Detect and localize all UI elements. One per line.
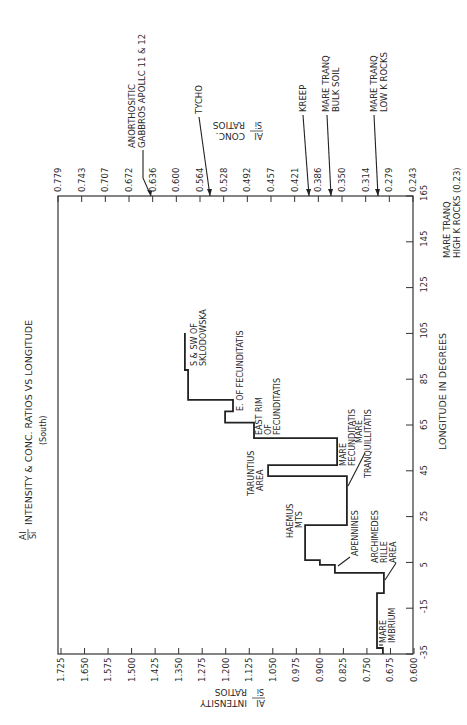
longitude-tick-label: 45	[419, 465, 429, 476]
annotation-line: MARE	[339, 443, 348, 466]
title-fraction-denominator: Si	[29, 532, 38, 539]
annotation-mare-imbrium: MARE IMBRIUM	[379, 607, 397, 643]
intensity-tick-label: 1.425	[150, 658, 160, 682]
marker-label-line: BULK SOIL	[331, 67, 341, 112]
ylabel-numerator: Al	[256, 698, 265, 708]
intensity-tick-label: 1.050	[268, 658, 278, 682]
title-text: INTENSITY & CONC. RATIOS VS LONGITUDE	[23, 320, 34, 525]
marker-label-line: LOW K ROCKS	[379, 52, 389, 112]
concentration-tick-label: 0.386	[313, 168, 323, 192]
intensity-tick-label: 0.675	[385, 658, 395, 682]
marker-label-line: HIGH K ROCKS (0.23)	[452, 167, 462, 258]
intensity-tick-label: 1.350	[174, 658, 184, 682]
concentration-axis-ticks: 0.7790.7430.7070.6720.6360.6000.5640.528…	[53, 168, 418, 202]
concentration-tick-label: 0.350	[337, 168, 347, 192]
concentration-tick-label: 0.564	[195, 168, 205, 192]
annotation-tranquillitatis: MARE TRANQUILLITATIS	[355, 409, 373, 479]
archimedes-leader	[385, 563, 396, 580]
title-fraction-numerator: Al	[18, 531, 28, 540]
annotation-line: AREA	[256, 469, 265, 491]
ylabel-word-intensity: INTENSITY	[200, 698, 247, 708]
marker-bulk-soil: MARE TRANQ BULK SOIL	[321, 55, 341, 112]
marker-label-line: GABBROS APOLLC 11 & 12	[137, 34, 147, 148]
intensity-tick-label: 0.750	[362, 658, 372, 682]
concentration-tick-label: 0.492	[242, 168, 252, 192]
annotation-line: HAEMUS	[286, 504, 295, 538]
concentration-tick-label: 0.672	[124, 168, 134, 192]
longitude-tick-label: 105	[419, 322, 429, 338]
al-si-ratio-chart: 1.7251.6501.5751.5001.4251.3501.2751.200…	[0, 0, 467, 725]
marker-anorthositic: ANORTHOSITIC GABBROS APOLLC 11 & 12	[127, 34, 147, 148]
apennines-leader	[338, 557, 350, 566]
kreep-leader	[303, 115, 309, 196]
marker-label-line: KREEP	[298, 85, 308, 112]
y2label-denominator: Si	[255, 120, 262, 129]
intensity-tick-label: 0.975	[291, 658, 301, 682]
longitude-tick-label: -35	[419, 645, 429, 659]
intensity-axis-ticks: 1.7251.6501.5751.5001.4251.3501.2751.200…	[56, 648, 419, 682]
marker-tycho: TYCHO	[194, 85, 204, 115]
annotation-line: FECUNDITATIS	[273, 378, 282, 435]
longitude-tick-label: 5	[419, 562, 429, 567]
intensity-axis-label: Al Si INTENSITY RATIOS	[200, 687, 265, 708]
longitude-tick-label: 165	[419, 185, 429, 201]
longitude-tick-label: 65	[419, 419, 429, 430]
concentration-tick-label: 0.743	[77, 168, 87, 192]
intensity-tick-label: 0.900	[315, 658, 325, 682]
concentration-tick-label: 0.779	[53, 168, 63, 192]
concentration-axis-label: Al Si CONC. RATIOS	[212, 120, 263, 141]
intensity-step-trace	[185, 333, 384, 654]
annotation-mare-fecunditatis: MARE FECUNDITATIS	[339, 409, 357, 466]
annotation-line: ARCHIMEDES	[371, 510, 380, 563]
intensity-tick-label: 0.825	[338, 658, 348, 682]
concentration-tick-label: 0.457	[266, 168, 276, 192]
concentration-tick-label: 0.636	[148, 168, 158, 192]
marker-label-line: MARE TRANQ	[321, 55, 331, 112]
concentration-tick-label: 0.707	[100, 168, 110, 192]
marker-low-k: MARE TRANQ LOW K ROCKS	[369, 52, 389, 112]
annotation-line: OF	[264, 424, 273, 435]
annotation-archimedes: ARCHIMEDES RILLE AREA	[371, 510, 398, 563]
concentration-tick-label: 0.600	[171, 168, 181, 192]
intensity-tick-label: 1.125	[244, 658, 254, 682]
annotation-line: TRANQUILLITATIS	[364, 409, 373, 479]
intensity-tick-label: 1.650	[80, 658, 90, 682]
annotation-line: S & SW OF	[190, 323, 199, 366]
marker-label-line: MARE TRANQ	[442, 201, 452, 258]
low-k-leader	[374, 115, 378, 196]
intensity-tick-label: 1.725	[56, 658, 66, 682]
longitude-tick-label: 145	[419, 231, 429, 247]
concentration-tick-label: 0.243	[408, 168, 418, 192]
concentration-tick-label: 0.528	[219, 168, 229, 192]
annotation-line: SKLODOWSKA	[199, 309, 208, 366]
annotation-line: EAST RIM	[255, 397, 264, 435]
annotation-taruntius: TARUNTIUS AREA	[247, 451, 265, 497]
y2label-numerator: Al	[254, 131, 263, 141]
longitude-tick-label: 85	[419, 373, 429, 384]
annotation-sklodowska: S & SW OF SKLODOWSKA	[190, 309, 208, 366]
intensity-tick-label: 1.500	[127, 658, 137, 682]
annotation-apennines: APENNINES	[351, 510, 360, 556]
concentration-tick-label: 0.279	[384, 168, 394, 192]
annotation-line: IMBRIUM	[388, 607, 397, 643]
chart-title: Al Si INTENSITY & CONC. RATIOS VS LONGIT…	[18, 320, 48, 540]
anorthositic-arrow-icon	[147, 190, 152, 196]
annotation-e-of-fecunditatis: E. OF FECUNDITATIS	[236, 330, 245, 411]
marker-label-line: ANORTHOSITIC	[127, 84, 137, 148]
y2label-word-ratios: RATIOS	[212, 120, 245, 130]
chart-subtitle: (South)	[39, 416, 48, 446]
ylabel-word-ratios: RATIOS	[214, 687, 247, 697]
intensity-tick-label: 1.200	[221, 658, 231, 682]
bulk-soil-leader	[327, 115, 331, 196]
marker-kreep: KREEP	[298, 85, 308, 112]
longitude-axis-label: LONGITUDE IN DEGREES	[437, 333, 448, 450]
annotation-line: E. OF FECUNDITATIS	[236, 330, 245, 411]
y2label-word-conc: CONC.	[216, 131, 245, 141]
reference-marker-labels: ANORTHOSITIC GABBROS APOLLC 11 & 12 TYCH…	[127, 34, 462, 258]
intensity-tick-label: 1.575	[103, 658, 113, 682]
concentration-tick-label: 0.421	[290, 168, 300, 192]
annotation-line: FECUNDITATIS	[348, 409, 357, 466]
concentration-tick-label: 0.314	[361, 168, 371, 192]
annotation-line: AREA	[389, 541, 398, 563]
annotation-line: MARE	[379, 620, 388, 643]
